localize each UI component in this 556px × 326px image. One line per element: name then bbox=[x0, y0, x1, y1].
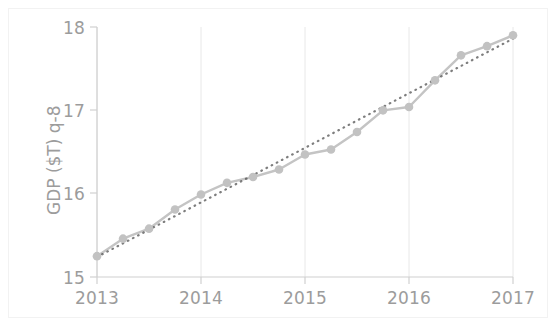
data-point-marker bbox=[509, 31, 518, 40]
data-point-marker bbox=[405, 103, 414, 112]
data-point-marker bbox=[145, 224, 154, 233]
chart-figure: 18 17 16 15 2013 2014 2015 2016 2017 GDP… bbox=[0, 0, 556, 326]
y-axis-label: GDP ($T) q-8 bbox=[44, 105, 64, 215]
data-point-marker bbox=[223, 179, 232, 188]
x-tick-label-2014: 2014 bbox=[171, 288, 231, 308]
data-point-marker bbox=[353, 128, 362, 137]
x-tick-label-2015: 2015 bbox=[275, 288, 335, 308]
data-point-marker bbox=[249, 173, 258, 182]
data-point-marker bbox=[457, 51, 466, 60]
y-tick-marks bbox=[90, 27, 97, 277]
y-tick-label-18: 18 bbox=[55, 18, 85, 38]
data-point-marker bbox=[275, 165, 284, 174]
y-tick-label-15: 15 bbox=[55, 268, 85, 288]
data-point-marker bbox=[327, 145, 336, 154]
data-point-marker bbox=[197, 190, 206, 199]
data-point-marker bbox=[171, 205, 180, 214]
x-tick-label-2013: 2013 bbox=[67, 288, 127, 308]
x-tick-marks bbox=[97, 277, 513, 284]
data-point-marker bbox=[93, 252, 102, 261]
data-point-marker bbox=[119, 234, 128, 243]
data-point-marker bbox=[301, 150, 310, 159]
x-tick-label-2017: 2017 bbox=[483, 288, 543, 308]
data-point-marker bbox=[431, 76, 440, 85]
data-point-marker bbox=[483, 42, 492, 51]
x-tick-label-2016: 2016 bbox=[379, 288, 439, 308]
data-point-marker bbox=[379, 106, 388, 115]
